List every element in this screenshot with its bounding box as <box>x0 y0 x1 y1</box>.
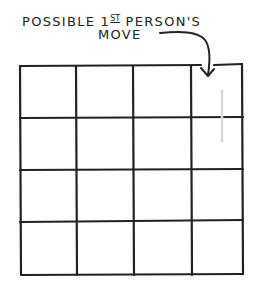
grid-bottom-edge <box>21 274 243 275</box>
diagram-canvas: POSSIBLE 1ST PERSON'S MOVE <box>0 0 256 289</box>
grid-horizontal-2 <box>20 169 243 170</box>
arrow-icon <box>160 32 214 76</box>
grid-horizontal-3 <box>20 220 243 222</box>
grid-drawing <box>0 0 256 289</box>
grid-vertical-3 <box>191 66 192 275</box>
grid-top-edge <box>20 65 201 66</box>
grid-lines <box>20 64 243 275</box>
grid-top-edge-right <box>214 64 242 65</box>
grid-horizontal-1 <box>20 117 243 118</box>
